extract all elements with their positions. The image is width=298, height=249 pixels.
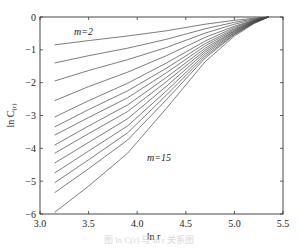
x-tick-label: 3.0 (34, 218, 47, 229)
annotation-m2: m=2 (74, 26, 93, 37)
x-tick-label: 5.0 (228, 218, 241, 229)
x-tick-label: 3.5 (82, 218, 95, 229)
y-tick-label: −4 (25, 143, 36, 154)
y-axis-label: ln C(r) (5, 103, 18, 128)
figure-caption: 图 ln C(r) 与 ln r 关系图 (0, 233, 298, 246)
series-line-m14 (55, 17, 269, 193)
x-tick-label: 4.0 (131, 218, 144, 229)
x-tick-label: 5.5 (277, 218, 290, 229)
y-tick-label: −3 (25, 110, 36, 121)
x-tick-label: 4.5 (180, 218, 193, 229)
y-tick-label: −6 (25, 209, 36, 220)
y-tick-label: −1 (25, 44, 36, 55)
series-line-m11 (55, 17, 269, 163)
series-line-m10 (55, 17, 269, 153)
y-tick-label: −5 (25, 176, 36, 187)
series-line-m15 (55, 17, 269, 212)
y-tick-label: 0 (31, 12, 36, 23)
correlation-integral-chart: 3.03.54.04.55.05.50−1−2−3−4−5−6m=2m=15ln… (0, 0, 298, 249)
annotation-m15: m=15 (147, 152, 171, 163)
y-tick-label: −2 (25, 77, 36, 88)
